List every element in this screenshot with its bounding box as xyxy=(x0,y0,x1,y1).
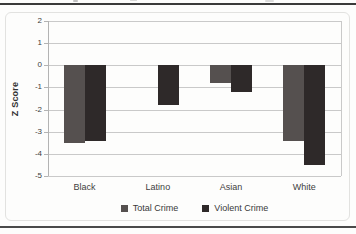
y-tick-label: -1 xyxy=(22,82,42,92)
gridline xyxy=(48,176,341,177)
bar-violent-crime-white xyxy=(304,65,325,165)
y-tick-label: -3 xyxy=(22,127,42,137)
x-category-label: Asian xyxy=(201,182,261,192)
bar-total-crime-black xyxy=(64,65,85,143)
x-category-label: White xyxy=(274,182,334,192)
gridline xyxy=(48,154,341,155)
y-axis-tick xyxy=(44,176,48,177)
top-horizontal-rule xyxy=(0,3,356,5)
bar-violent-crime-latino xyxy=(158,65,179,105)
x-category-label: Latino xyxy=(128,182,188,192)
y-tick-label: 0 xyxy=(22,60,42,70)
bar-violent-crime-black xyxy=(85,65,106,140)
legend-item-violent-crime: Violent Crime xyxy=(202,203,268,213)
y-tick-label: 2 xyxy=(22,16,42,26)
legend-item-total-crime: Total Crime xyxy=(121,203,179,213)
y-tick-label: 1 xyxy=(22,38,42,48)
cropped-text-artifact xyxy=(130,0,137,1)
gridline xyxy=(48,43,341,44)
cropped-text-artifact xyxy=(265,0,274,2)
y-tick-label: -4 xyxy=(22,149,42,159)
legend-label: Total Crime xyxy=(133,203,179,213)
y-axis-line xyxy=(48,21,49,176)
bottom-horizontal-rule xyxy=(0,226,356,228)
chart-legend: Total Crime Violent Crime xyxy=(48,202,341,214)
plot-right-border xyxy=(341,21,342,176)
total-crime-swatch-icon xyxy=(121,205,128,212)
bar-total-crime-asian xyxy=(210,65,231,83)
cropped-text-artifact xyxy=(73,0,78,2)
y-tick-label: -5 xyxy=(22,171,42,181)
bar-violent-crime-asian xyxy=(231,65,252,92)
legend-label: Violent Crime xyxy=(214,203,268,213)
gridline xyxy=(48,21,341,22)
y-axis-title: Z Score xyxy=(10,69,22,129)
bar-total-crime-white xyxy=(283,65,304,140)
y-tick-label: -2 xyxy=(22,105,42,115)
x-category-label: Black xyxy=(55,182,115,192)
violent-crime-swatch-icon xyxy=(202,205,209,212)
scanned-figure-page: Z Score 210-1-2-3-4-5BlackLatinoAsianWhi… xyxy=(0,0,356,234)
